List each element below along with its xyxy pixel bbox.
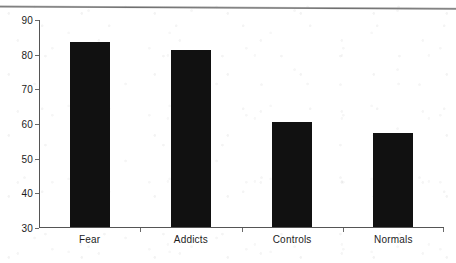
bar <box>272 122 312 227</box>
plot-area: 30405060708090 FearAddictsControlsNormal… <box>39 20 444 228</box>
y-axis-tick <box>35 89 39 90</box>
y-axis-tick <box>35 55 39 56</box>
y-axis-tick-label: 40 <box>21 188 33 199</box>
bar <box>373 133 413 227</box>
x-axis-tick <box>343 228 344 232</box>
y-axis-tick-label: 70 <box>21 84 33 95</box>
y-axis-tick-label: 30 <box>21 223 33 234</box>
y-axis-tick-label: 80 <box>21 49 33 60</box>
x-axis-category-label: Normals <box>374 234 413 245</box>
x-axis-category-label: Fear <box>79 234 100 245</box>
y-axis-tick <box>35 159 39 160</box>
y-axis-line <box>39 20 40 228</box>
bar-chart-figure: 30405060708090 FearAddictsControlsNormal… <box>0 0 456 263</box>
bar <box>70 42 110 227</box>
x-axis-tick <box>140 228 141 232</box>
x-axis-end-tick <box>443 228 444 232</box>
y-axis-tick <box>35 193 39 194</box>
x-axis-category-label: Controls <box>273 234 312 245</box>
top-horizontal-rule <box>0 5 456 10</box>
y-axis-tick <box>35 20 39 21</box>
x-axis-tick <box>242 228 243 232</box>
y-axis-tick-label: 60 <box>21 119 33 130</box>
x-axis-category-label: Addicts <box>174 234 208 245</box>
bar <box>171 50 211 227</box>
y-axis-tick <box>35 124 39 125</box>
y-axis-tick-label: 50 <box>21 153 33 164</box>
y-axis-tick-label: 90 <box>21 15 33 26</box>
y-axis-tick <box>35 228 39 229</box>
